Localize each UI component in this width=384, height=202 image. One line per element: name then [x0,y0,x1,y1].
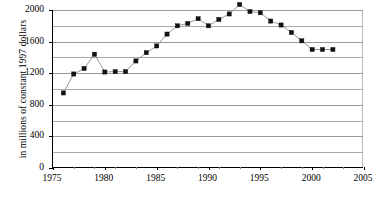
data-series [53,10,364,168]
y-axis-tick-label: 1600 [0,36,44,46]
y-axis-tick-label: 2000 [0,4,44,14]
x-axis-tick-label: 1995 [239,173,279,183]
data-point [310,47,314,51]
data-point [82,66,86,70]
x-axis-tick-label: 1980 [84,173,124,183]
data-point [123,70,127,74]
data-point [248,9,252,13]
x-axis-tick-label: 1985 [136,173,176,183]
x-axis-tick-label: 2005 [343,173,383,183]
data-point [155,44,159,48]
y-axis-tick-label: 0 [0,162,44,172]
x-axis-tick-label: 1990 [188,173,228,183]
y-axis-title: in millions of constant 1997 dollars [18,4,28,174]
data-point [206,24,210,28]
data-point [238,2,242,6]
data-point [113,70,117,74]
y-axis-tick-label: 800 [0,99,44,109]
data-point [144,51,148,55]
data-point [92,52,96,56]
y-axis-tick-label: 1200 [0,67,44,77]
data-point [186,21,190,25]
plot-area [52,10,363,168]
data-point [320,47,324,51]
y-axis-tick-label: 400 [0,130,44,140]
data-point [269,19,273,23]
data-point [258,11,262,15]
data-point [331,47,335,51]
line-chart: in millions of constant 1997 dollars 040… [0,0,384,202]
data-point [72,72,76,76]
data-point [279,23,283,27]
x-axis-tick-label: 1975 [32,173,72,183]
series-markers [61,2,335,95]
data-point [175,24,179,28]
data-point [103,70,107,74]
x-axis-tick [364,167,365,170]
data-point [165,32,169,36]
data-point [217,17,221,21]
data-point [300,39,304,43]
data-point [61,91,65,95]
data-point [196,17,200,21]
x-axis-tick-label: 2000 [291,173,331,183]
data-point [289,30,293,34]
data-point [227,12,231,16]
data-point [134,59,138,63]
